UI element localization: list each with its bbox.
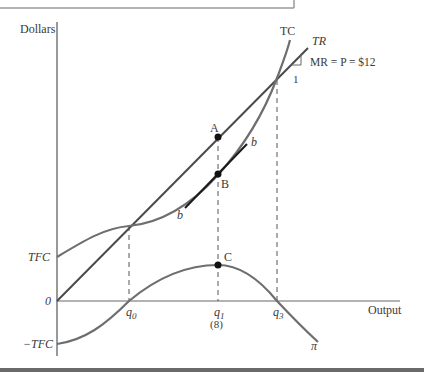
slope-run-label: 1 bbox=[293, 73, 299, 85]
tangent-top-label: b bbox=[251, 135, 257, 149]
profit-maximization-chart: Dollars Output TC TR MR = P = $12 1 TFC … bbox=[0, 0, 424, 375]
point-a-label: A bbox=[210, 121, 219, 135]
point-b-label: B bbox=[221, 177, 229, 191]
top-frame bbox=[0, 0, 294, 8]
bottom-rule bbox=[0, 368, 424, 372]
mr-label: MR = P = $12 bbox=[310, 56, 376, 68]
tr-label: TR bbox=[312, 34, 327, 48]
tangent-bottom-label: b bbox=[177, 208, 183, 222]
zero-label: 0 bbox=[45, 294, 51, 308]
q0-label: q0 bbox=[126, 305, 137, 321]
y-axis-label: Dollars bbox=[20, 22, 56, 36]
q1-value-label: (8) bbox=[210, 318, 223, 331]
neg-tfc-label: −TFC bbox=[23, 337, 54, 351]
tc-label: TC bbox=[280, 24, 295, 38]
point-c bbox=[215, 262, 222, 269]
tfc-label: TFC bbox=[28, 250, 51, 264]
pi-label: π bbox=[311, 339, 318, 353]
tr-line bbox=[57, 48, 308, 301]
x-axis-label: Output bbox=[368, 303, 402, 317]
point-c-label: C bbox=[224, 250, 232, 264]
